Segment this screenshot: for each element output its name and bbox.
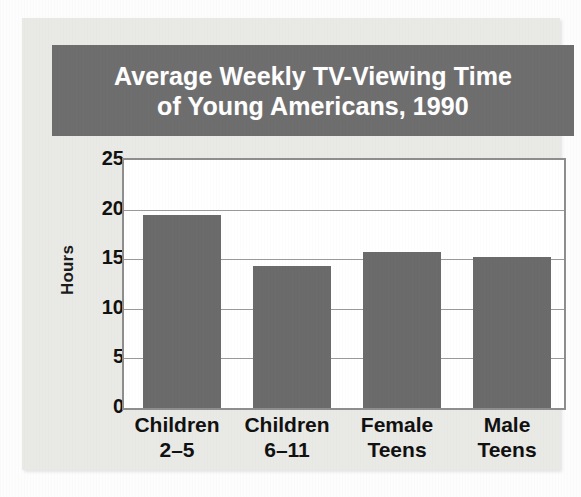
y-tick-label-10: 10	[84, 297, 124, 317]
x-category-line-1: Female	[342, 412, 452, 437]
chart-title-line-2: of Young Americans, 1990	[157, 91, 469, 121]
y-tick-label-5: 5	[84, 346, 124, 366]
y-tick-label-20: 20	[84, 198, 124, 218]
x-axis-category-labels: Children2–5Children6–11FemaleTeensMaleTe…	[122, 412, 566, 484]
x-category-label-3: FemaleTeens	[342, 412, 452, 462]
y-axis-title: Hours	[58, 230, 78, 310]
bars-layer	[124, 160, 564, 408]
chart-title-line-1: Average Weekly TV-Viewing Time	[114, 61, 512, 91]
x-category-line-2: 2–5	[122, 437, 232, 462]
y-tick-label-25: 25	[84, 148, 124, 168]
y-tick-label-15: 15	[84, 247, 124, 267]
x-category-line-1: Male	[452, 412, 562, 437]
bar-2	[253, 266, 331, 408]
plot-area	[122, 158, 566, 410]
chart-title-banner: Average Weekly TV-Viewing Time of Young …	[52, 45, 574, 136]
bar-chart: Hours 0510152025 Children2–5Children6–11…	[44, 142, 581, 488]
x-category-label-4: MaleTeens	[452, 412, 562, 462]
figure-card: Average Weekly TV-Viewing Time of Young …	[22, 18, 560, 470]
bar-3	[363, 252, 441, 408]
x-category-label-1: Children2–5	[122, 412, 232, 462]
y-axis-tick-labels: 0510152025	[84, 142, 124, 488]
x-category-line-2: 6–11	[232, 437, 342, 462]
bar-4	[473, 257, 551, 408]
x-category-line-1: Children	[232, 412, 342, 437]
scanned-page: Average Weekly TV-Viewing Time of Young …	[0, 0, 581, 497]
x-category-line-1: Children	[122, 412, 232, 437]
x-category-line-2: Teens	[452, 437, 562, 462]
y-tick-label-0: 0	[84, 396, 124, 416]
x-category-line-2: Teens	[342, 437, 452, 462]
x-category-label-2: Children6–11	[232, 412, 342, 462]
bar-1	[143, 215, 221, 408]
